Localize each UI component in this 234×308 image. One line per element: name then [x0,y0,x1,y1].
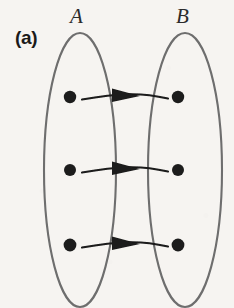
set-label-a: A [70,6,83,27]
mapping-arrow-group [82,89,168,251]
figure-panel: (a) A B [0,0,234,308]
arrow-head [112,89,140,103]
mapping-arrow-2 [82,162,168,176]
element-dot-b3 [172,239,185,252]
element-dot-a2 [64,164,76,176]
arrow-head [112,162,140,176]
panel-label: (a) [15,28,37,47]
set-label-b: B [176,6,189,27]
arrow-head [112,237,140,251]
element-dot-a3 [64,239,77,252]
element-dot-b2 [172,164,184,176]
element-dot-a1 [64,91,76,103]
element-dot-b1 [172,91,184,103]
